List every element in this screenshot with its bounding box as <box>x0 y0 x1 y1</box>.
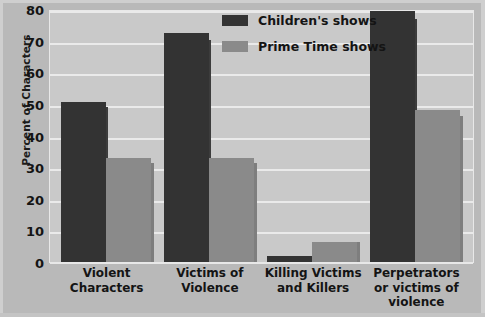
gridline <box>50 262 473 264</box>
figure-frame-top <box>0 0 485 3</box>
bar <box>312 242 357 262</box>
x-axis-label-line: Violent <box>57 266 157 281</box>
y-axis-tick-label: 10 <box>14 225 44 238</box>
bar <box>164 33 209 262</box>
bar <box>415 110 460 262</box>
x-axis-label-line: Victims of <box>160 266 260 281</box>
y-axis-tick-label: 70 <box>14 35 44 48</box>
x-axis-label-line: or victims of <box>366 281 466 296</box>
figure-frame-right <box>481 0 485 317</box>
x-axis-label: Victims ofViolence <box>160 266 260 316</box>
legend-swatch-icon <box>222 15 248 26</box>
bar <box>106 158 151 262</box>
y-axis-tick-labels: 80706050403020100 <box>14 4 44 268</box>
y-axis-tick-label: 60 <box>14 67 44 80</box>
x-axis-label: Perpetratorsor victims ofviolence <box>366 266 466 316</box>
y-axis-tick-label: 40 <box>14 130 44 143</box>
x-axis-label-line: Violence <box>160 281 260 296</box>
x-axis-label-line: and Killers <box>263 281 363 296</box>
x-axis-category-labels: ViolentCharactersVictims ofViolenceKilli… <box>49 266 474 316</box>
y-axis-tick-label: 0 <box>14 257 44 270</box>
y-axis-tick-label: 20 <box>14 193 44 206</box>
legend-item: Children's shows <box>222 13 386 28</box>
figure-frame-left <box>0 0 3 317</box>
bar-group <box>61 11 153 262</box>
bar <box>267 256 312 262</box>
bar <box>209 158 254 262</box>
chart-legend: Children's showsPrime Time shows <box>222 13 386 65</box>
legend-swatch-icon <box>222 41 248 52</box>
x-axis-label-line: Killing Victims <box>263 266 363 281</box>
x-axis-label: ViolentCharacters <box>57 266 157 316</box>
x-axis-label-line: Perpetrators <box>366 266 466 281</box>
legend-label: Prime Time shows <box>258 39 386 54</box>
bar <box>61 102 106 262</box>
bar-chart-figure: Percent of Characters 80706050403020100 … <box>0 0 485 317</box>
y-axis-tick-label: 80 <box>14 4 44 17</box>
legend-label: Children's shows <box>258 13 377 28</box>
y-axis-tick-label: 50 <box>14 98 44 111</box>
y-axis-tick-label: 30 <box>14 162 44 175</box>
x-axis-label-line: violence <box>366 295 466 310</box>
x-axis-label: Killing Victimsand Killers <box>263 266 363 316</box>
legend-item: Prime Time shows <box>222 39 386 54</box>
x-axis-label-line: Characters <box>57 281 157 296</box>
